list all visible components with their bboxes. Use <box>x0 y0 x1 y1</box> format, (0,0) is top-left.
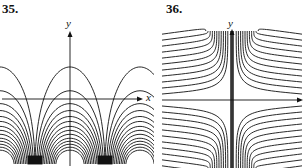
figure-35: 35. x y <box>0 0 154 168</box>
x-axis-arrow-icon <box>297 98 303 103</box>
y-axis-arrow-icon <box>68 31 73 37</box>
x-axis-label: x <box>146 91 151 103</box>
figure-35-plot <box>0 0 154 168</box>
x-axis-arrow-icon <box>137 97 143 102</box>
y-axis-label: y <box>66 17 71 29</box>
figure-36: 36. y <box>154 0 308 168</box>
y-axis-label: y <box>228 17 233 29</box>
